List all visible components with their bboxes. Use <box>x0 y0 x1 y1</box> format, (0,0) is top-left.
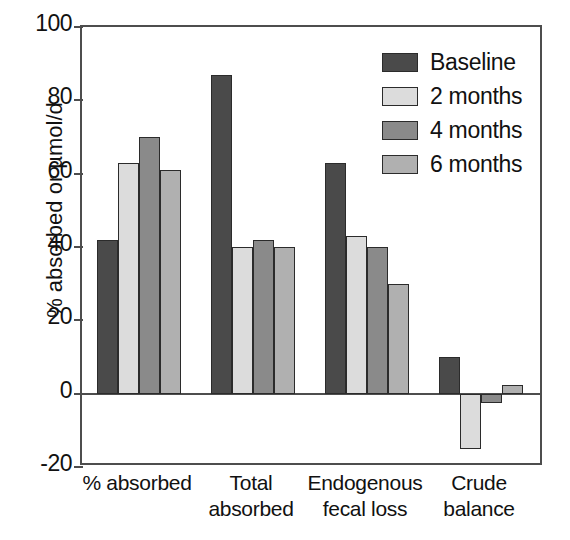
chart-figure: -20020406080100 % absorbed or µmol/d Bas… <box>0 0 570 540</box>
bar <box>160 170 181 394</box>
bar <box>274 247 295 394</box>
bar <box>439 357 460 394</box>
legend-swatch <box>382 121 418 140</box>
bar <box>97 240 118 394</box>
legend-item: 6 months <box>382 151 522 178</box>
y-axis-tick-mark <box>74 393 83 395</box>
y-axis-tick-mark <box>74 466 83 468</box>
plot-area: Baseline2 months4 months6 months <box>80 25 542 465</box>
legend-item: 2 months <box>382 83 522 110</box>
bar <box>139 137 160 394</box>
legend-item: Baseline <box>382 49 522 76</box>
bar <box>502 385 523 394</box>
legend-swatch <box>382 87 418 106</box>
y-axis-tick-mark <box>74 173 83 175</box>
legend-label: 4 months <box>430 117 522 144</box>
legend-item: 4 months <box>382 117 522 144</box>
x-axis-category-labels: % absorbedTotal absorbedEndogenous fecal… <box>80 470 542 540</box>
bar <box>388 284 409 394</box>
bar <box>367 247 388 394</box>
legend-label: Baseline <box>430 49 516 76</box>
legend: Baseline2 months4 months6 months <box>382 49 522 178</box>
y-axis-tick-label: 0 <box>60 377 72 404</box>
y-axis-tick-mark <box>74 99 83 101</box>
x-axis-category-label: Crude balance <box>399 470 559 522</box>
bar <box>211 75 232 394</box>
y-axis-tick-mark <box>74 26 83 28</box>
y-axis-title: % absorbed or µmol/d <box>42 60 68 360</box>
y-axis-tick-label: 100 <box>35 10 72 37</box>
y-axis-tick-mark <box>74 246 83 248</box>
bar <box>253 240 274 394</box>
bar <box>232 247 253 394</box>
bar <box>325 163 346 394</box>
bar <box>346 236 367 394</box>
legend-swatch <box>382 155 418 174</box>
legend-label: 2 months <box>430 83 522 110</box>
legend-label: 6 months <box>430 151 522 178</box>
bar <box>118 163 139 394</box>
y-axis-tick-mark <box>74 319 83 321</box>
legend-swatch <box>382 53 418 72</box>
bar <box>460 394 481 449</box>
bar <box>481 394 502 403</box>
